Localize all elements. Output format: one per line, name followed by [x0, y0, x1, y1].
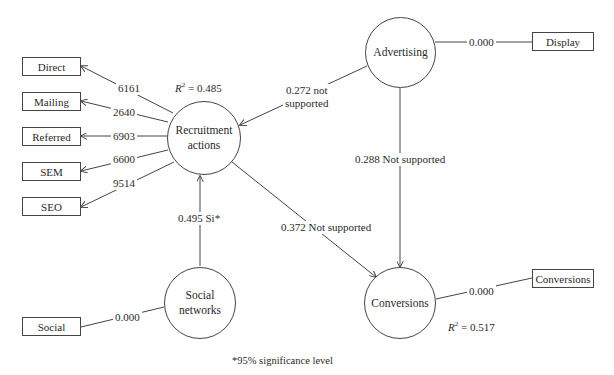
path-label-recruitment-conversions: 0.372 Not supported — [279, 221, 373, 234]
construct-recruitment-actions: Recruitment actions — [167, 101, 241, 175]
path-label-advertising-conversions: 0.288 Not supported — [353, 153, 447, 166]
indicator-social: Social — [22, 317, 81, 336]
construct-label: Advertising — [373, 45, 427, 60]
path-label-advertising-recruitment: 0.272 not supported — [283, 84, 330, 110]
construct-label-line2: networks — [179, 303, 221, 318]
weight-referred: 6903 — [111, 130, 137, 143]
indicator-label: Display — [546, 36, 580, 48]
footnote: *95% significance level — [230, 355, 335, 368]
indicator-sem: SEM — [22, 162, 81, 181]
weight-display: 0.000 — [467, 36, 496, 49]
path-label-social-recruitment: 0.495 Si* — [176, 212, 222, 225]
weight-social: 0.000 — [113, 311, 142, 324]
connector-lines — [0, 0, 614, 375]
weight-conversions: 0.000 — [467, 285, 496, 298]
indicator-label: SEM — [40, 166, 63, 178]
indicator-referred: Referred — [22, 127, 81, 146]
r-symbol: R — [175, 82, 182, 94]
construct-conversions: Conversions — [364, 267, 436, 339]
weight-direct: 6161 — [116, 82, 142, 95]
indicator-conversions: Conversions — [532, 269, 594, 288]
indicator-label: Referred — [32, 131, 70, 143]
r-squared-recruitment: R2 = 0.485 — [175, 81, 222, 94]
indicator-label: SEO — [41, 201, 62, 213]
indicator-mailing: Mailing — [22, 92, 81, 111]
path-label-line2: supported — [285, 97, 328, 110]
indicator-label: Social — [38, 321, 66, 333]
indicator-direct: Direct — [22, 57, 81, 76]
indicator-label: Conversions — [536, 273, 591, 285]
construct-label-line1: Social — [179, 288, 221, 303]
construct-label-line1: Recruitment — [176, 123, 233, 138]
indicator-display: Display — [532, 32, 594, 51]
weight-mailing: 2640 — [111, 106, 137, 119]
construct-social-networks: Social networks — [164, 267, 236, 339]
construct-advertising: Advertising — [365, 17, 436, 88]
r-value: = 0.517 — [458, 321, 494, 333]
construct-label: Conversions — [371, 296, 429, 311]
indicator-label: Direct — [38, 61, 65, 73]
weight-seo: 9514 — [111, 177, 137, 190]
path-label-line1: 0.272 not — [285, 84, 328, 97]
weight-sem: 6600 — [111, 153, 137, 166]
r-value: = 0.485 — [185, 82, 221, 94]
indicator-seo: SEO — [22, 197, 81, 216]
sem-diagram: Direct Mailing Referred SEM SEO Social D… — [0, 0, 614, 375]
construct-label-line2: actions — [176, 138, 233, 153]
indicator-label: Mailing — [34, 96, 69, 108]
path-recruitment-conversions — [232, 162, 376, 277]
r-symbol: R — [448, 321, 455, 333]
r-squared-conversions: R2 = 0.517 — [448, 320, 495, 333]
